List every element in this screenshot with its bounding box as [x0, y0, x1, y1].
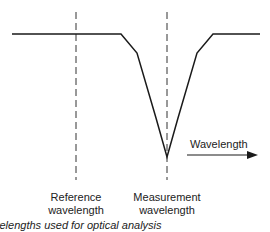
reference-wavelength-label: Reference wavelength [36, 191, 116, 217]
measurement-wavelength-label: Measurement wavelength [122, 191, 212, 217]
arrow-head-icon [247, 151, 258, 159]
figure-caption: velengths used for optical analysis [0, 219, 162, 231]
measurement-label-line2: wavelength [122, 204, 212, 217]
reference-label-line2: wavelength [36, 204, 116, 217]
measurement-label-line1: Measurement [122, 191, 212, 204]
reference-label-line1: Reference [36, 191, 116, 204]
wavelength-axis-label: Wavelength [190, 138, 248, 151]
